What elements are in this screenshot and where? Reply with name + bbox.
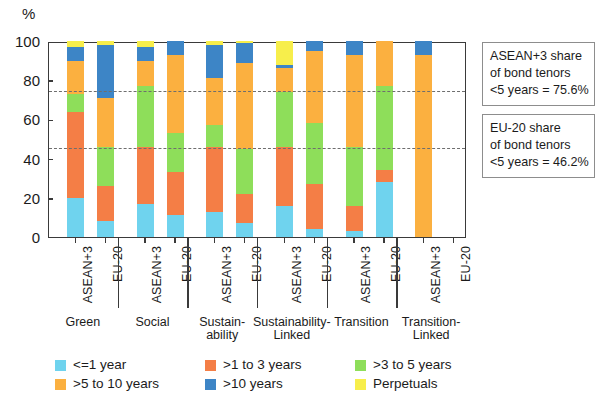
x-axis-label-11: EU-20 xyxy=(459,246,473,282)
segment--5-to-10-years xyxy=(306,51,323,124)
segment-perpetuals xyxy=(276,41,293,65)
x-tick-9 xyxy=(383,238,385,243)
bar-green-asean-3 xyxy=(67,41,84,237)
segment--10-years xyxy=(137,47,154,61)
segment--10-years xyxy=(167,41,184,55)
plot-area xyxy=(48,42,466,238)
segment--1-to-3-years xyxy=(276,147,293,206)
bar-social-eu-20 xyxy=(167,41,184,237)
bar-transition-asean-3 xyxy=(346,41,363,237)
segment--5-to-10-years xyxy=(346,55,363,147)
x-axis-label-8: ASEAN+3 xyxy=(359,246,373,303)
segment--3-to-5-years xyxy=(67,94,84,112)
segment--3-to-5-years xyxy=(236,149,253,194)
legend-item--1-to-3-years[interactable]: >1 to 3 years xyxy=(205,358,355,372)
legend-item--10-years[interactable]: >10 years xyxy=(205,377,355,391)
bar-social-asean-3 xyxy=(137,41,154,237)
x-axis-label-6: ASEAN+3 xyxy=(290,246,304,303)
x-tick-1 xyxy=(105,238,107,243)
annotation-asean3-line1: ASEAN+3 share xyxy=(490,48,588,65)
segment--1-to-3-years xyxy=(167,172,184,215)
segment--3-to-5-years xyxy=(346,147,363,206)
x-tick-5 xyxy=(244,238,246,243)
segment--5-to-10-years xyxy=(415,55,432,237)
y-tick-label-20: 20 xyxy=(0,191,40,206)
group-separator-5 xyxy=(396,238,397,308)
segment--1-year xyxy=(376,182,393,237)
annotation-eu20-line3: <5 years = 46.2% xyxy=(490,154,588,171)
legend-swatch-icon xyxy=(55,360,66,371)
segment--3-to-5-years xyxy=(167,133,184,172)
legend-label: >5 to 10 years xyxy=(73,377,159,391)
annotation-asean3: ASEAN+3 share of bond tenors <5 years = … xyxy=(482,42,595,106)
segment--1-to-3-years xyxy=(376,170,393,182)
segment--1-year xyxy=(306,229,323,237)
segment--5-to-10-years xyxy=(236,63,253,149)
bar-sustainability-linked-eu-20 xyxy=(306,41,323,237)
x-tick-11 xyxy=(453,238,455,243)
segment--1-to-3-years xyxy=(206,147,223,212)
bar-transition-eu-20 xyxy=(376,41,393,237)
annotation-asean3-line2: of bond tenors xyxy=(490,65,588,82)
group-separator-4 xyxy=(327,238,328,308)
segment--1-year xyxy=(346,231,363,237)
bar-sustainability-linked-asean-3 xyxy=(276,41,293,237)
x-tick-2 xyxy=(144,238,146,243)
x-axis-label-4: ASEAN+3 xyxy=(220,246,234,303)
segment--1-year xyxy=(137,204,154,237)
bar-sustainability-asean-3 xyxy=(206,41,223,237)
legend-label: >10 years xyxy=(223,377,283,391)
x-tick-4 xyxy=(214,238,216,243)
annotation-eu20: EU-20 share of bond tenors <5 years = 46… xyxy=(482,114,595,178)
x-tick-8 xyxy=(353,238,355,243)
bar-green-eu-20 xyxy=(97,41,114,237)
segment--1-year xyxy=(67,198,84,237)
x-axis-label-2: ASEAN+3 xyxy=(150,246,164,303)
segment--1-to-3-years xyxy=(137,147,154,204)
legend-row-1: >5 to 10 years>10 yearsPerpetuals xyxy=(55,377,470,391)
group-label-transition-linked: Transition- Linked xyxy=(388,316,474,342)
segment--10-years xyxy=(67,47,84,61)
segment--1-year xyxy=(97,221,114,237)
annotation-eu20-line1: EU-20 share xyxy=(490,120,588,137)
segment--1-year xyxy=(236,223,253,237)
segment--5-to-10-years xyxy=(67,61,84,94)
segment--5-to-10-years xyxy=(276,68,293,92)
y-tick-mark-60 xyxy=(48,120,53,122)
legend-swatch-icon xyxy=(355,379,366,390)
y-tick-label-60: 60 xyxy=(0,112,40,127)
legend-label: Perpetuals xyxy=(373,377,438,391)
segment--1-to-3-years xyxy=(306,184,323,229)
segment--10-years xyxy=(236,43,253,63)
legend-item-perpetuals[interactable]: Perpetuals xyxy=(355,377,470,391)
segment--3-to-5-years xyxy=(206,125,223,147)
y-tick-label-100: 100 xyxy=(0,34,40,49)
legend-label: >3 to 5 years xyxy=(373,358,451,372)
legend-swatch-icon xyxy=(205,360,216,371)
x-tick-6 xyxy=(284,238,286,243)
chart-container: % 100806040200 ASEAN+3EU-20ASEAN+3EU-20A… xyxy=(0,0,470,393)
annotation-eu20-line2: of bond tenors xyxy=(490,137,588,154)
legend-item--5-to-10-years[interactable]: >5 to 10 years xyxy=(55,377,205,391)
segment--1-to-3-years xyxy=(67,112,84,198)
segment--5-to-10-years xyxy=(376,41,393,86)
x-axis-label-10: ASEAN+3 xyxy=(429,246,443,303)
legend-label: <=1 year xyxy=(73,358,126,372)
chart-legend: <=1 year>1 to 3 years>3 to 5 years>5 to … xyxy=(55,358,470,393)
y-axis-ticks: 100806040200 xyxy=(0,0,48,393)
legend-item--3-to-5-years[interactable]: >3 to 5 years xyxy=(355,358,470,372)
y-tick-label-40: 40 xyxy=(0,152,40,167)
annotation-boxes: ASEAN+3 share of bond tenors <5 years = … xyxy=(482,42,595,186)
group-separator-1 xyxy=(118,238,119,308)
legend-swatch-icon xyxy=(55,379,66,390)
legend-label: >1 to 3 years xyxy=(223,358,301,372)
legend-item--1-year[interactable]: <=1 year xyxy=(55,358,205,372)
reference-line-0 xyxy=(49,91,465,92)
segment--3-to-5-years xyxy=(137,86,154,147)
segment--5-to-10-years xyxy=(167,55,184,133)
legend-row-0: <=1 year>1 to 3 years>3 to 5 years xyxy=(55,358,470,372)
x-axis-label-0: ASEAN+3 xyxy=(81,246,95,303)
legend-swatch-icon xyxy=(205,379,216,390)
segment--10-years xyxy=(206,45,223,78)
segment--10-years xyxy=(346,41,363,55)
